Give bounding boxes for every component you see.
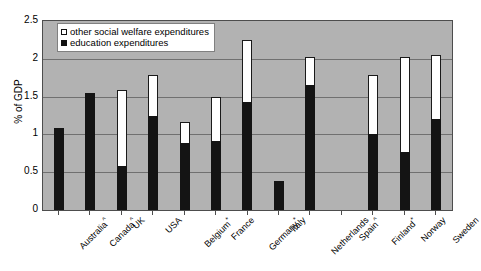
y-tick-label: 2 <box>12 53 38 63</box>
y-tick-label: 1.5 <box>12 91 38 101</box>
x-category-label: USA <box>164 215 184 235</box>
bar-slot <box>421 21 452 210</box>
y-tick-label: 2.5 <box>12 15 38 25</box>
bar-slot <box>232 21 263 210</box>
bar-slot <box>263 21 294 210</box>
x-category-label: Norway <box>419 215 448 244</box>
bar-stack <box>148 75 158 210</box>
x-category-name: USA <box>164 215 184 235</box>
legend-item: other social welfare expenditures <box>61 26 209 37</box>
legend-item-label: other social welfare expenditures <box>70 26 209 37</box>
bar-segment-other-social-welfare <box>117 90 127 166</box>
bar-stack <box>368 75 378 210</box>
bar-segment-education <box>211 141 221 210</box>
bar-stack <box>211 97 221 210</box>
bar-segment-other-social-welfare <box>242 40 252 102</box>
y-tick-label: 0 <box>12 204 38 214</box>
bar-stack <box>54 128 64 210</box>
bar-stack <box>242 40 252 210</box>
bar-segment-education <box>242 102 252 210</box>
bar-stack <box>274 181 284 210</box>
y-tick-label: 1 <box>12 128 38 138</box>
x-category-name: Sweden <box>451 215 481 245</box>
legend-swatch-education-icon <box>61 40 67 46</box>
bar-stack <box>180 122 190 210</box>
bar-stack <box>400 57 410 210</box>
bar-segment-education <box>117 166 127 210</box>
x-category-label: Belgium* <box>200 215 234 249</box>
x-category-label: Australia^ <box>75 215 111 251</box>
chart-legend: other social welfare expenditureseducati… <box>57 23 215 52</box>
bar-segment-education <box>85 93 95 210</box>
legend-item: education expenditures <box>61 37 209 48</box>
bar-stack <box>431 55 441 210</box>
bar-segment-other-social-welfare <box>400 57 410 152</box>
bar-segment-other-social-welfare <box>368 75 378 133</box>
bar-segment-education <box>305 85 315 210</box>
x-category-name: Belgium <box>202 219 232 249</box>
bar-segment-education <box>431 119 441 210</box>
bar-segment-other-social-welfare <box>180 122 190 144</box>
bar-segment-education <box>400 152 410 210</box>
x-category-name: Finland <box>390 219 418 247</box>
x-category-label: Sweden <box>451 215 481 245</box>
bar-segment-education <box>368 134 378 210</box>
bar-segment-education <box>274 181 284 210</box>
bar-segment-other-social-welfare <box>211 97 221 141</box>
x-category-name: France <box>229 215 256 242</box>
bar-segment-other-social-welfare <box>431 55 441 119</box>
bar-slot <box>358 21 389 210</box>
bar-slot <box>326 21 357 210</box>
x-category-name: Norway <box>419 215 448 244</box>
bar-segment-other-social-welfare <box>148 75 158 115</box>
legend-item-label: education expenditures <box>70 37 168 48</box>
bar-stack <box>117 90 127 210</box>
bar-slot <box>295 21 326 210</box>
bar-segment-education <box>148 116 158 211</box>
x-axis-category-labels: Australia^Canada^UKUSABelgium*FranceGerm… <box>42 215 453 271</box>
bar-stack <box>305 57 315 210</box>
bar-segment-other-social-welfare <box>305 57 315 85</box>
y-axis-tick-labels: 00.511.522.5 <box>12 0 38 271</box>
bar-slot <box>389 21 420 210</box>
x-category-name: Australia <box>77 219 109 251</box>
plot-area: other social welfare expenditureseducati… <box>42 20 453 211</box>
x-category-label: Finland* <box>388 215 420 247</box>
x-category-label: France <box>229 215 256 242</box>
bar-segment-education <box>54 128 64 210</box>
bar-stack <box>85 93 95 210</box>
legend-swatch-other-social-welfare-icon <box>61 29 67 35</box>
bar-segment-education <box>180 143 190 210</box>
y-tick-label: 0.5 <box>12 166 38 176</box>
